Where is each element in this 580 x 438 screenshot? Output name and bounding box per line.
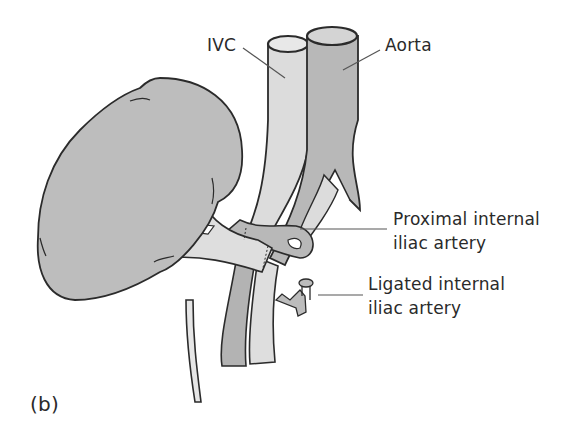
label-proximal-line1: Proximal internal [393, 208, 540, 230]
external-iliac-vein [249, 258, 278, 364]
label-aorta: Aorta [385, 34, 432, 56]
ligated-internal-iliac-artery [276, 279, 313, 316]
anatomy-diagram: IVC Aorta Proximal internal iliac artery… [0, 0, 580, 438]
aorta-opening [307, 27, 357, 45]
label-ligated-line2: iliac artery [368, 297, 461, 319]
ivc-opening [268, 36, 308, 52]
kidney [38, 78, 242, 300]
label-proximal-line2: iliac artery [393, 232, 486, 254]
label-ligated-line1: Ligated internal [368, 273, 505, 295]
panel-label: (b) [30, 393, 59, 415]
label-ivc: IVC [207, 34, 236, 56]
ureter [186, 300, 201, 402]
